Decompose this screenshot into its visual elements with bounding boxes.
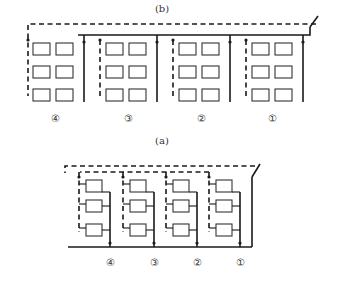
riser-label-2-a: ②	[193, 257, 202, 268]
riser-1-b	[244, 35, 304, 102]
riser-3-a	[121, 172, 155, 247]
riser-1-a	[207, 172, 241, 247]
riser-label-3-a: ③	[150, 257, 159, 268]
riser-label-4-a: ④	[106, 257, 115, 268]
riser-label-4-b: ④	[51, 113, 60, 124]
diagram-a: (a)	[65, 135, 260, 268]
supply-inlet-slant-b	[310, 16, 318, 27]
riser-3-b	[98, 35, 158, 102]
return-main-b	[28, 24, 316, 34]
heating-system-diagram: (a)	[0, 0, 340, 292]
caption-b: (b)	[155, 3, 169, 14]
caption-a: (a)	[155, 135, 169, 146]
riser-label-1-a: ①	[236, 257, 245, 268]
riser-label-1-b: ①	[268, 113, 277, 124]
riser-label-3-b: ③	[124, 113, 133, 124]
riser-4-a	[77, 172, 111, 247]
riser-2-b	[171, 35, 231, 102]
supply-main-b	[78, 27, 310, 35]
riser-4-b	[26, 34, 85, 102]
riser-label-2-b: ②	[197, 113, 206, 124]
riser-2-a	[164, 172, 198, 247]
diagram-b: (b)	[26, 3, 318, 124]
